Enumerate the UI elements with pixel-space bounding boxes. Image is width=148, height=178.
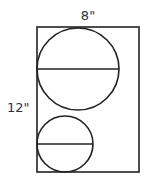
outer-rectangle xyxy=(37,27,139,172)
diagram-canvas: 8" 12" xyxy=(0,0,148,178)
height-label: 12" xyxy=(7,100,30,115)
width-label: 8" xyxy=(81,8,95,23)
